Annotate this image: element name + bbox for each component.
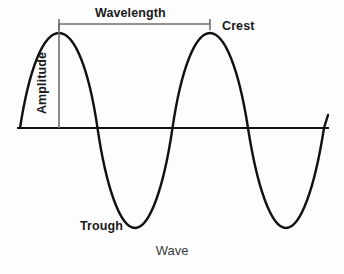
- wave-graphic: [0, 0, 344, 274]
- crest-label: Crest: [222, 20, 254, 33]
- amplitude-label: Amplitude: [36, 52, 49, 114]
- wavelength-label: Wavelength: [95, 7, 166, 20]
- wave-curve: [20, 33, 328, 228]
- figure-caption: Wave: [0, 244, 344, 257]
- wavelength-measure: [59, 19, 210, 30]
- wave-diagram: Wavelength Crest Trough Amplitude Wave: [0, 0, 344, 274]
- trough-label: Trough: [80, 220, 123, 233]
